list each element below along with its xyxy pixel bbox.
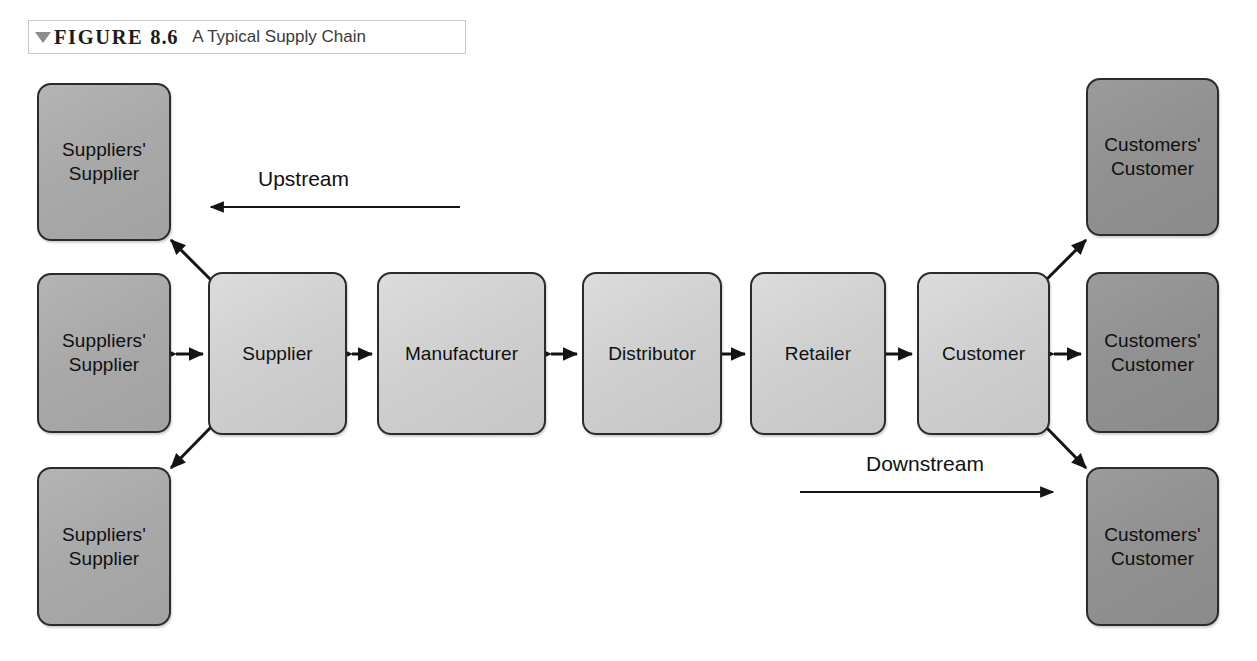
figure-caption-bar: FIGURE 8.6 A Typical Supply Chain (28, 20, 466, 54)
node-label: Suppliers' Supplier (58, 138, 150, 185)
node-label: Suppliers' Supplier (58, 329, 150, 376)
node-label: Customers' Customer (1100, 329, 1204, 376)
figure-title: A Typical Supply Chain (192, 27, 366, 47)
node-customer[interactable]: Customer (917, 272, 1050, 435)
node-suppliers-supplier-middle[interactable]: Suppliers' Supplier (37, 273, 171, 433)
connector-suppliers-supplier-top-to-supplier (171, 240, 214, 283)
node-customers-customer-bottom[interactable]: Customers' Customer (1086, 467, 1219, 626)
node-suppliers-supplier-bottom[interactable]: Suppliers' Supplier (37, 467, 171, 626)
node-label: Customers' Customer (1100, 523, 1204, 570)
connector-customer-to-customers-customer-top (1043, 240, 1086, 283)
node-label: Customers' Customer (1100, 133, 1204, 180)
figure-label: FIGURE (54, 26, 143, 49)
node-customers-customer-top[interactable]: Customers' Customer (1086, 78, 1219, 236)
node-label: Retailer (781, 342, 855, 366)
node-retailer[interactable]: Retailer (750, 272, 886, 435)
node-label: Supplier (238, 342, 317, 366)
node-label: Customer (938, 342, 1029, 366)
node-label: Suppliers' Supplier (58, 523, 150, 570)
downstream-label: Downstream (866, 452, 984, 476)
node-label: Manufacturer (401, 342, 522, 366)
figure-number: 8.6 (150, 26, 178, 49)
upstream-label: Upstream (258, 167, 349, 191)
node-label: Distributor (604, 342, 700, 366)
node-customers-customer-middle[interactable]: Customers' Customer (1086, 272, 1219, 433)
connector-customer-to-customers-customer-bottom (1043, 424, 1086, 468)
figure-container: FIGURE 8.6 A Typical Supply Chain (0, 0, 1257, 661)
connector-suppliers-supplier-bottom-to-supplier (171, 424, 214, 468)
node-supplier[interactable]: Supplier (208, 272, 347, 435)
triangle-down-icon (35, 32, 51, 43)
node-manufacturer[interactable]: Manufacturer (377, 272, 546, 435)
node-distributor[interactable]: Distributor (582, 272, 722, 435)
node-suppliers-supplier-top[interactable]: Suppliers' Supplier (37, 83, 171, 241)
